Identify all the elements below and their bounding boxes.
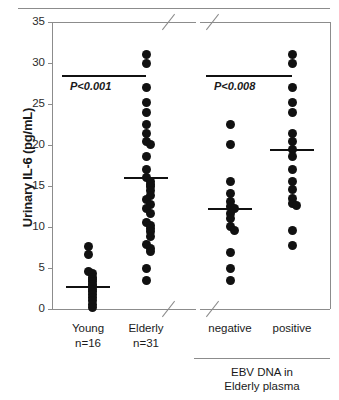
figure-panel: Urinary IL-6 (pg/mL) P<0.001P<0.008 0510… [0, 0, 339, 400]
y-tick-label: 5 [19, 261, 45, 273]
data-point [142, 120, 151, 129]
right-panel-spine [330, 22, 331, 309]
data-point [230, 226, 239, 235]
group-label: positive [252, 322, 332, 334]
panel-bottom-rule-right [200, 309, 330, 310]
p-value-bar [62, 75, 146, 77]
y-tick-mark [48, 104, 52, 105]
data-point [288, 185, 297, 194]
data-point [288, 165, 297, 174]
data-point [288, 83, 297, 92]
p-value-label: P<0.001 [70, 80, 111, 92]
ebv-caption-line1: EBV DNA in [194, 366, 330, 378]
data-point [142, 98, 151, 107]
data-point [288, 98, 297, 107]
group-label: Elderly [106, 322, 186, 334]
y-tick-mark [48, 186, 52, 187]
median-line [270, 149, 314, 151]
y-tick-mark [48, 309, 52, 310]
data-point [142, 276, 151, 285]
y-axis-spine [52, 22, 53, 309]
data-point [288, 108, 297, 117]
y-tick-mark [48, 268, 52, 269]
panel-top-rule-right [200, 22, 330, 23]
data-point [292, 201, 301, 210]
y-tick-label: 35 [19, 15, 45, 27]
data-point [288, 241, 297, 250]
y-tick-mark [48, 22, 52, 23]
ebv-caption-line2: Elderly plasma [194, 380, 330, 392]
y-tick-label: 0 [19, 302, 45, 314]
median-line [208, 208, 252, 210]
data-point [226, 264, 235, 273]
y-tick-label: 20 [19, 138, 45, 150]
data-point [226, 120, 235, 129]
data-point [146, 247, 155, 256]
panel-top-rule-left [52, 22, 196, 23]
panel-bottom-rule-left [52, 309, 196, 310]
ebv-caption-rule [194, 358, 330, 359]
data-point [288, 226, 297, 235]
data-point [142, 59, 151, 68]
data-point [226, 140, 235, 149]
y-tick-mark [48, 63, 52, 64]
top-divider-rule [18, 8, 330, 9]
data-point [142, 50, 151, 59]
p-value-label: P<0.008 [214, 80, 255, 92]
data-point [142, 264, 151, 273]
data-point [84, 250, 93, 259]
y-tick-label: 25 [19, 97, 45, 109]
median-line [124, 177, 168, 179]
y-tick-label: 15 [19, 179, 45, 191]
data-point [288, 59, 297, 68]
data-point [226, 276, 235, 285]
y-axis-title: Urinary IL-6 (pg/mL) [20, 58, 35, 278]
data-point [142, 83, 151, 92]
data-point [142, 152, 151, 161]
y-tick-mark [48, 145, 52, 146]
data-point [142, 108, 151, 117]
data-point [226, 177, 235, 186]
data-point [146, 140, 155, 149]
data-point [288, 50, 297, 59]
data-point [226, 248, 235, 257]
y-tick-label: 10 [19, 220, 45, 232]
group-n-label: n=31 [106, 337, 186, 349]
data-point [146, 209, 155, 218]
y-tick-label: 30 [19, 56, 45, 68]
p-value-bar [206, 75, 292, 77]
median-line [66, 286, 110, 288]
y-tick-mark [48, 227, 52, 228]
data-point [288, 152, 297, 161]
data-point [88, 303, 97, 312]
